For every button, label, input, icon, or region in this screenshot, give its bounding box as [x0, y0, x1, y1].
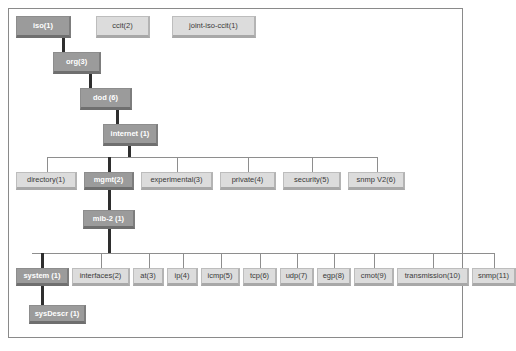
node-tcp[interactable]: tcp(6): [243, 268, 277, 286]
edge-drop-interfaces: [101, 253, 102, 268]
node-experimental[interactable]: experimental(3): [141, 172, 213, 190]
edge-drop-transmission: [433, 253, 434, 268]
edge-bus-internet-children: [47, 157, 377, 158]
edge-system-sysdescr: [41, 286, 44, 305]
node-ip[interactable]: ip(4): [167, 268, 198, 286]
node-ccit[interactable]: ccit(2): [96, 16, 150, 38]
node-sysDescr[interactable]: sysDescr (1): [29, 305, 86, 324]
edge-drop-mgmt: [108, 157, 111, 172]
node-icmp[interactable]: icmp(5): [201, 268, 240, 286]
edge-drop-ip: [183, 253, 184, 268]
edge-drop-experimental: [177, 157, 178, 172]
edge-drop-at: [149, 253, 150, 268]
node-org[interactable]: org(3): [53, 52, 101, 74]
node-private[interactable]: private(4): [220, 172, 276, 190]
edge-drop-private: [248, 157, 249, 172]
node-mib-2[interactable]: mib-2 (1): [83, 210, 135, 229]
node-udp[interactable]: udp(7): [280, 268, 314, 286]
edge-drop-directory: [47, 157, 48, 172]
edge-drop-icmp: [221, 253, 222, 268]
node-egp[interactable]: egp(8): [317, 268, 351, 286]
edge-org-dod: [89, 74, 92, 88]
edge-drop-snmp: [494, 253, 495, 268]
edge-drop-security: [312, 157, 313, 172]
node-cmot[interactable]: cmot(9): [354, 268, 394, 286]
edge-drop-egp: [334, 253, 335, 268]
edge-iso-org: [62, 38, 65, 52]
node-internet[interactable]: internet (1): [103, 124, 158, 146]
node-snmp[interactable]: snmp(11): [472, 268, 516, 286]
node-joint-iso-ccit[interactable]: joint-iso-ccit(1): [172, 16, 256, 38]
edge-drop-snmpv2: [377, 157, 378, 172]
edge-drop-system: [41, 253, 44, 268]
node-interfaces[interactable]: interfaces(2): [72, 268, 130, 286]
edge-drop-cmot: [374, 253, 375, 268]
node-directory[interactable]: directory(1): [16, 172, 77, 190]
node-transmission[interactable]: transmission(10): [397, 268, 469, 286]
node-iso[interactable]: iso(1): [16, 16, 71, 38]
edge-drop-tcp: [260, 253, 261, 268]
edge-mgmt-mib2: [108, 190, 111, 210]
edge-drop-udp: [297, 253, 298, 268]
node-dod[interactable]: dod (6): [80, 88, 132, 110]
node-mgmt[interactable]: mgmt(2): [84, 172, 134, 190]
edge-mib2-bus: [108, 229, 111, 253]
node-security[interactable]: security(5): [283, 172, 341, 190]
node-snmpv2[interactable]: snmp V2(6): [348, 172, 405, 190]
edge-dod-internet: [116, 110, 119, 124]
node-at[interactable]: at(3): [133, 268, 164, 286]
node-system[interactable]: system (1): [16, 268, 69, 286]
